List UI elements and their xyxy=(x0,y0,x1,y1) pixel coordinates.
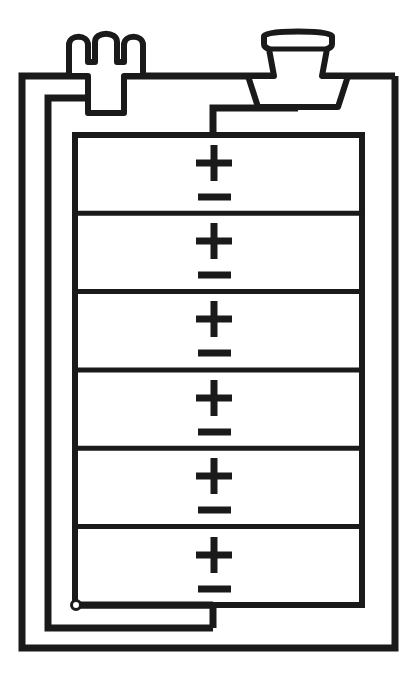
connection-node-icon xyxy=(72,601,81,610)
battery-diagram: 9V Battery Internal Cell Schematic xyxy=(0,0,417,675)
battery-schematic-svg xyxy=(0,0,417,675)
